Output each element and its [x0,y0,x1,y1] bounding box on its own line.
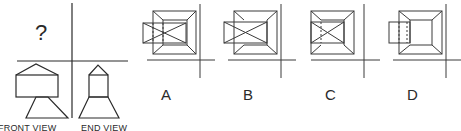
front-view-caption: FRONT VIEW [0,123,56,131]
option-c-drawing [311,4,380,78]
option-a-drawing [143,4,215,78]
end-view-caption: END VIEW [81,123,127,131]
front-view-drawing [16,64,68,118]
option-b-drawing [224,4,296,78]
unknown-view-question-mark: ? [35,20,47,46]
option-a-label[interactable]: A [161,86,171,103]
option-b-label[interactable]: B [243,86,253,103]
option-d-label[interactable]: D [407,86,418,103]
option-d-drawing [389,4,461,78]
diagram-canvas [0,0,461,131]
end-view-drawing [79,65,119,118]
option-c-label[interactable]: C [325,86,336,103]
